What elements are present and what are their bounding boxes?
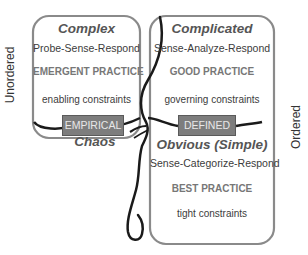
obvious-method: Sense-Categorize-Respond [150, 157, 274, 169]
complex-constraints: enabling constraints [33, 94, 140, 105]
chaos-title: Chaos [60, 134, 130, 149]
defined-tag: DEFINED [178, 115, 236, 136]
complicated-constraints: governing constraints [150, 94, 274, 105]
complex-method: Probe-Sense-Respond [33, 42, 140, 54]
complicated-title: Complicated [150, 21, 274, 36]
ordered-axis-label: Ordered [289, 97, 303, 157]
obvious-practice: BEST PRACTICE [150, 183, 274, 194]
defined-right-line [236, 122, 262, 126]
complicated-method: Sense-Analyze-Respond [150, 42, 274, 54]
defined-left-line [148, 118, 178, 126]
empirical-tag: EMPIRICAL [62, 115, 124, 136]
obvious-title: Obvious (Simple) [150, 137, 274, 152]
obvious-constraints: tight constraints [150, 208, 274, 219]
complex-title: Complex [33, 21, 140, 36]
complex-practice: EMERGENT PRACTICE [33, 66, 140, 77]
complicated-practice: GOOD PRACTICE [150, 66, 274, 77]
unordered-axis-label: Unordered [3, 45, 17, 105]
